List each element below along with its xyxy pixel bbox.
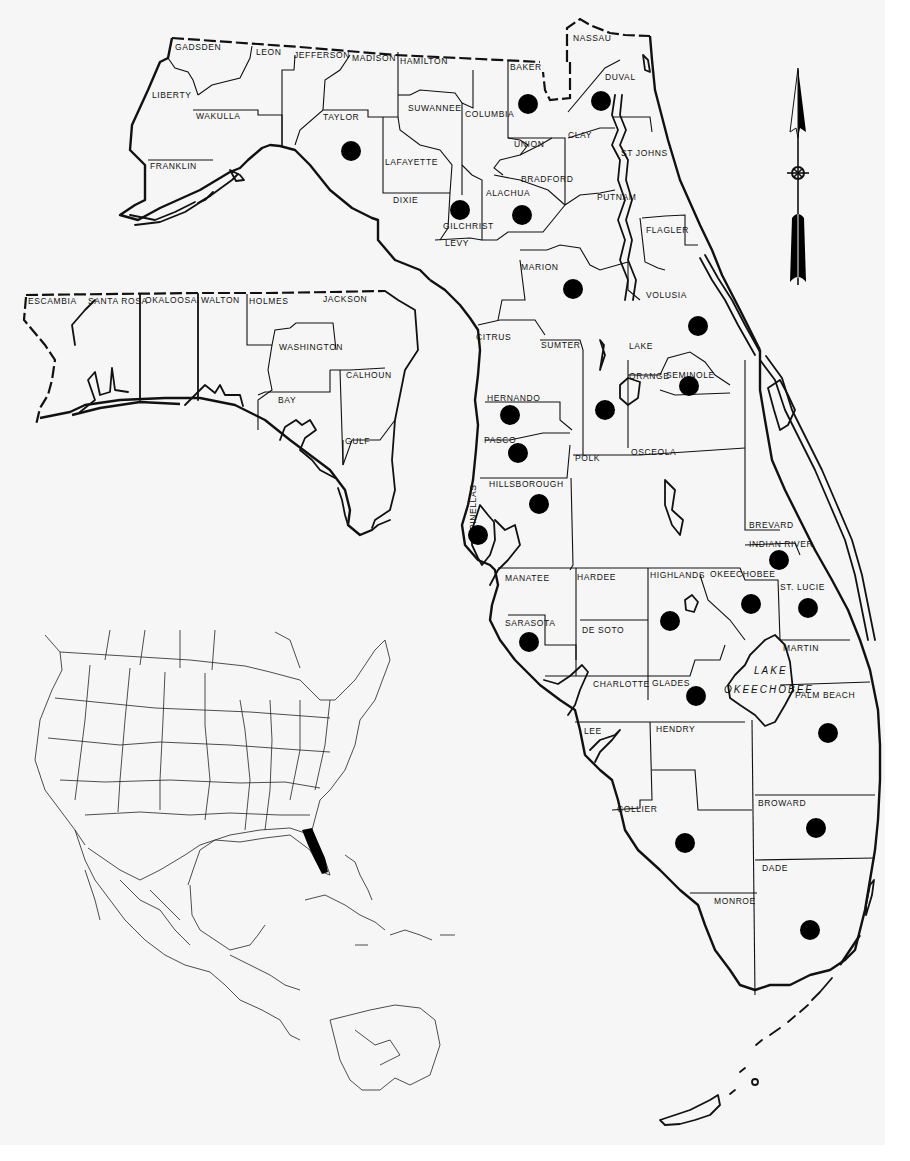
label-jackson: JACKSON bbox=[323, 294, 367, 304]
dot-collier bbox=[675, 833, 695, 853]
label-collier: COLLIER bbox=[617, 804, 658, 814]
label-escambia: ESCAMBIA bbox=[28, 296, 77, 306]
label-alachua: ALACHUA bbox=[486, 188, 530, 198]
dot-seminole bbox=[679, 376, 699, 396]
label-monroe: MONROE bbox=[714, 896, 756, 906]
label-martin: MARTIN bbox=[783, 643, 819, 653]
label-bay: BAY bbox=[278, 395, 296, 405]
occurrence-dots bbox=[341, 91, 838, 940]
dot-gilchrist bbox=[450, 200, 470, 220]
label-bradford: BRADFORD bbox=[521, 174, 574, 184]
label-nassau: NASSAU bbox=[573, 33, 612, 43]
label-volusia: VOLUSIA bbox=[646, 290, 687, 300]
dot-highlands bbox=[660, 611, 680, 631]
label-lee: LEE bbox=[584, 726, 602, 736]
label-clay: CLAY bbox=[568, 130, 592, 140]
label-gadsden: GADSDEN bbox=[175, 42, 221, 52]
label-lake-okeechobee-line1: LAKE bbox=[754, 665, 788, 676]
dot-okeechobee bbox=[741, 594, 761, 614]
label-lake-okeechobee-line2: OKEECHOBEE bbox=[724, 684, 814, 695]
label-lake: LAKE bbox=[629, 341, 653, 351]
label-sarasota: SARASOTA bbox=[505, 618, 555, 628]
label-flagler: FLAGLER bbox=[646, 225, 689, 235]
label-franklin: FRANKLIN bbox=[150, 161, 197, 171]
label-manatee: MANATEE bbox=[505, 573, 550, 583]
dot-hillsborough bbox=[529, 494, 549, 514]
label-lafayette: LAFAYETTE bbox=[385, 157, 438, 167]
label-holmes: HOLMES bbox=[249, 296, 289, 306]
label-st-lucie: ST. LUCIE bbox=[780, 582, 825, 592]
label-broward: BROWARD bbox=[758, 798, 806, 808]
dot-alachua bbox=[512, 205, 532, 225]
label-highlands: HIGHLANDS bbox=[650, 570, 705, 580]
label-gulf: GULF bbox=[345, 436, 370, 446]
dot-duval bbox=[591, 91, 611, 111]
label-washington: WASHINGTON bbox=[279, 342, 343, 352]
dot-indian-river bbox=[769, 550, 789, 570]
label-dade: DADE bbox=[762, 863, 788, 873]
label-suwannee: SUWANNEE bbox=[408, 103, 462, 113]
label-wakulla: WAKULLA bbox=[196, 111, 241, 121]
label-okaloosa: OKALOOSA bbox=[145, 295, 197, 305]
lower-keys bbox=[660, 1095, 720, 1125]
dot-sarasota bbox=[519, 632, 539, 652]
locator-inset-north-america bbox=[35, 630, 455, 1090]
florida-map: GADSDEN LEON JEFFERSON MADISON HAMILTON … bbox=[0, 0, 910, 1161]
label-orange: ORANGE bbox=[629, 371, 669, 381]
dot-taylor bbox=[341, 141, 361, 161]
label-levy: LEVY bbox=[445, 238, 469, 248]
label-citrus: CITRUS bbox=[476, 332, 511, 342]
label-jefferson: JEFFERSON bbox=[294, 50, 350, 60]
label-gilchrist: GILCHRIST bbox=[443, 221, 494, 231]
label-dixie: DIXIE bbox=[393, 195, 418, 205]
label-putnam: PUTNAM bbox=[597, 192, 637, 202]
label-leon: LEON bbox=[256, 47, 282, 57]
label-duval: DUVAL bbox=[605, 72, 636, 82]
peninsula-outlines bbox=[430, 280, 880, 1125]
label-osceola: OSCEOLA bbox=[631, 447, 676, 457]
label-brevard: BREVARD bbox=[749, 520, 794, 530]
label-indian-river: INDIAN RIVER bbox=[749, 539, 813, 549]
label-pasco: PASCO bbox=[484, 435, 516, 445]
county-labels: GADSDEN LEON JEFFERSON MADISON HAMILTON … bbox=[28, 33, 855, 906]
panhandle-west-outlines bbox=[24, 291, 418, 535]
dot-baker bbox=[518, 94, 538, 114]
label-columbia: COLUMBIA bbox=[465, 109, 514, 119]
dot-broward bbox=[806, 818, 826, 838]
label-sumter: SUMTER bbox=[541, 340, 581, 350]
dot-marion bbox=[563, 279, 583, 299]
label-liberty: LIBERTY bbox=[152, 90, 191, 100]
label-calhoun: CALHOUN bbox=[346, 370, 392, 380]
dot-pinellas bbox=[468, 525, 488, 545]
label-okeechobee: OKEECHOBEE bbox=[710, 569, 776, 579]
dot-hernando bbox=[500, 405, 520, 425]
label-de-soto: DE SOTO bbox=[582, 625, 624, 635]
label-taylor: TAYLOR bbox=[323, 112, 359, 122]
label-hernando: HERNANDO bbox=[487, 393, 540, 403]
dot-pasco bbox=[508, 443, 528, 463]
label-hillsborough: HILLSBOROUGH bbox=[489, 479, 564, 489]
label-hendry: HENDRY bbox=[656, 724, 695, 734]
dot-glades bbox=[686, 686, 706, 706]
label-union: UNION bbox=[514, 139, 544, 149]
dot-dade bbox=[800, 920, 820, 940]
dot-lake bbox=[595, 400, 615, 420]
label-madison: MADISON bbox=[352, 53, 396, 63]
label-charlotte: CHARLOTTE bbox=[593, 679, 650, 689]
dot-palm-beach bbox=[818, 723, 838, 743]
label-pinellas: PINELLAS bbox=[468, 485, 478, 530]
label-glades: GLADES bbox=[652, 678, 690, 688]
label-marion: MARION bbox=[521, 262, 559, 272]
label-hamilton: HAMILTON bbox=[400, 56, 448, 66]
dot-st-lucie bbox=[798, 598, 818, 618]
label-baker: BAKER bbox=[510, 62, 542, 72]
label-hardee: HARDEE bbox=[577, 572, 616, 582]
label-polk: POLK bbox=[575, 453, 600, 463]
florida-highlight bbox=[302, 828, 328, 874]
label-santa-rosa: SANTA ROSA bbox=[88, 296, 148, 306]
dot-volusia bbox=[688, 316, 708, 336]
label-st-johns: ST JOHNS bbox=[621, 148, 668, 158]
north-arrow-icon bbox=[787, 68, 809, 285]
label-walton: WALTON bbox=[201, 295, 240, 305]
